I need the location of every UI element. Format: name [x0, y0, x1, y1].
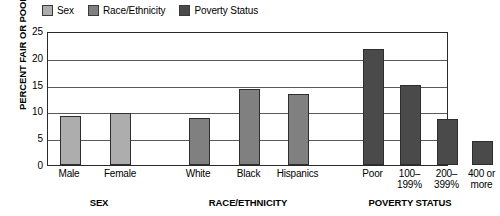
bar-100-199 — [400, 85, 421, 165]
gridline-15 — [48, 87, 447, 88]
y-tick-15: 15 — [23, 81, 43, 91]
chart-legend: Sex Race/Ethnicity Poverty Status — [42, 3, 258, 18]
gridline-20 — [48, 60, 447, 61]
plot-area — [47, 32, 448, 166]
x-label-white: White — [174, 168, 222, 179]
legend-label-poverty-status: Poverty Status — [194, 5, 258, 16]
bar-black — [239, 89, 260, 165]
x-label-hispanics: Hispanics — [268, 168, 327, 179]
bar-male — [60, 116, 81, 165]
y-tick-20: 20 — [23, 54, 43, 64]
legend-swatch-poverty-status — [179, 5, 190, 16]
y-tick-5: 5 — [23, 134, 43, 144]
bar-400-or-more — [472, 141, 493, 165]
group-label-race-ethnicity: RACE/ETHNICITY — [192, 197, 304, 208]
y-tick-25: 25 — [23, 27, 43, 37]
legend-item-sex: Sex — [42, 3, 74, 18]
x-axis-group-labels: SEX RACE/ETHNICITY POVERTY STATUS — [47, 197, 448, 211]
bar-white — [189, 118, 210, 165]
legend-swatch-sex — [42, 5, 53, 16]
x-label-male: Male — [45, 168, 93, 179]
bar-poor — [363, 49, 384, 165]
bar-female — [110, 113, 131, 165]
legend-swatch-race-ethnicity — [88, 5, 99, 16]
x-axis-tick-labels: Male Female White Black Hispanics Poor 1… — [47, 168, 448, 198]
group-label-poverty-status: POVERTY STATUS — [355, 197, 465, 208]
legend-label-race-ethnicity: Race/Ethnicity — [103, 5, 166, 16]
legend-item-race-ethnicity: Race/Ethnicity — [88, 3, 166, 18]
legend-item-poverty-status: Poverty Status — [179, 3, 258, 18]
bar-200-399 — [437, 119, 458, 165]
x-label-black: Black — [225, 168, 272, 179]
y-tick-0: 0 — [23, 161, 43, 171]
bar-hispanics — [288, 94, 309, 165]
y-axis-tick-labels: 25 20 15 10 5 0 — [21, 32, 43, 166]
legend-label-sex: Sex — [57, 5, 74, 16]
x-label-400-or-more: 400 or more — [458, 168, 500, 190]
x-label-female: Female — [95, 168, 145, 179]
group-label-sex: SEX — [69, 197, 129, 208]
y-tick-10: 10 — [23, 107, 43, 117]
